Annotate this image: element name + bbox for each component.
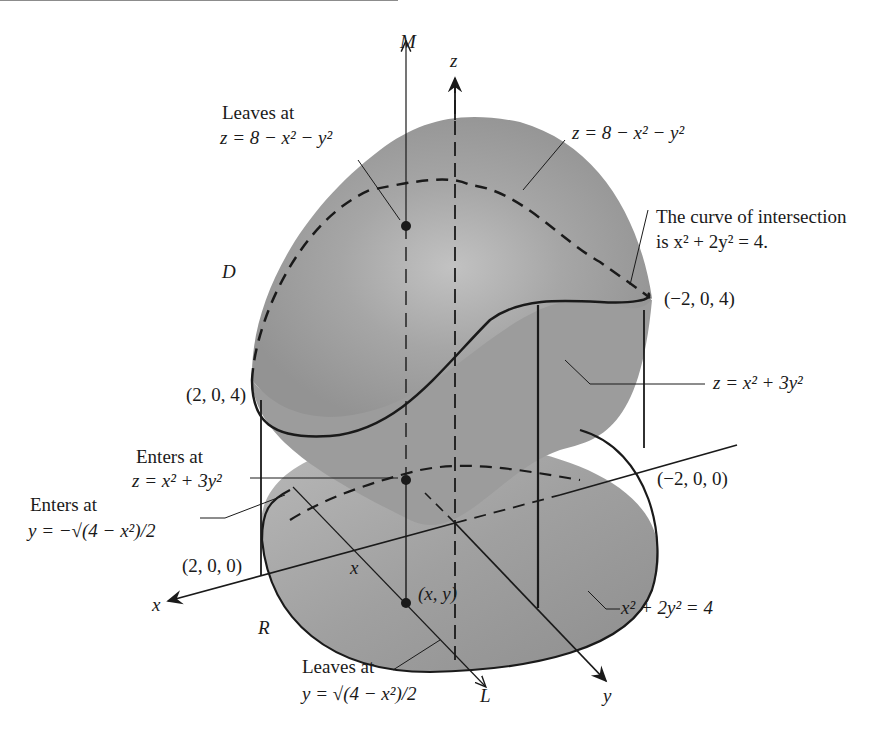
leaves-top-label-1: Leaves at [222, 102, 294, 124]
label-x-marker: x [349, 557, 359, 578]
curve-label-2: is x² + 2y² = 4. [656, 231, 768, 253]
upper-surface-label: z = 8 − x² − y² [572, 122, 684, 144]
label-m: M [399, 31, 417, 52]
label-x-axis: x [151, 594, 161, 615]
enters-y-label-1: Enters at [30, 494, 97, 516]
diagram-graphic: M z x y L D R x [0, 0, 885, 736]
point-204-label: (2, 0, 4) [186, 384, 246, 406]
leaves-top-label-2: z = 8 − x² − y² [220, 127, 332, 149]
figure-canvas: M z x y L D R x Leaves at z = 8 − x² − y… [0, 0, 885, 736]
lower-surface-label: z = x² + 3y² [713, 372, 803, 394]
enters-y-label-2: y = −√(4 − x²)/2 [28, 520, 155, 542]
label-y-axis: y [601, 685, 612, 706]
ellipse-label: x² + 2y² = 4 [621, 597, 713, 619]
leaves-y-label-1: Leaves at [302, 656, 374, 678]
point-xy-label: (x, y) [418, 583, 457, 605]
enters-z-label-2: z = x² + 3y² [132, 470, 222, 492]
curve-label-1: The curve of intersection [656, 206, 846, 228]
label-region-d: D [221, 261, 236, 282]
point-m200-label: (−2, 0, 0) [657, 468, 728, 490]
point-xy [401, 598, 411, 608]
enters-z-label-1: Enters at [136, 446, 203, 468]
point-m204-label: (−2, 0, 4) [664, 288, 735, 310]
label-z-axis: z [449, 50, 458, 71]
point-200-label: (2, 0, 0) [182, 555, 242, 577]
point-enters-bottom [401, 475, 411, 485]
label-l: L [479, 685, 491, 706]
point-leaves-top [401, 221, 411, 231]
leaves-y-label-2: y = √(4 − x²)/2 [302, 683, 417, 705]
label-region-r: R [257, 617, 270, 638]
